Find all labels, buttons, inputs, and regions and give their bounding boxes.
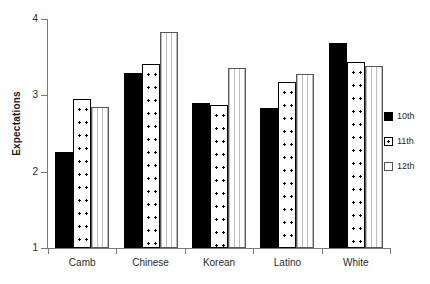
x-tick xyxy=(390,248,391,254)
legend-swatch-icon xyxy=(384,162,393,171)
y-tick-label: 3 xyxy=(24,90,38,100)
legend-label: 11th xyxy=(397,137,414,146)
bar-camb-11th xyxy=(73,99,91,248)
bar-chinese-11th xyxy=(142,64,160,248)
legend-item-10th[interactable]: 10th xyxy=(384,108,430,124)
y-tick-label: 1 xyxy=(24,243,38,253)
y-tick-label: 4 xyxy=(24,14,38,24)
y-tick xyxy=(41,95,47,96)
x-tick xyxy=(253,248,254,254)
x-group-label: White xyxy=(316,257,396,268)
bar-white-12th xyxy=(365,66,383,248)
legend-label: 10th xyxy=(397,112,415,121)
x-tick xyxy=(322,248,323,254)
legend-item-12th[interactable]: 12th xyxy=(384,158,430,174)
legend-swatch-icon xyxy=(384,112,393,121)
x-tick xyxy=(48,248,49,254)
legend-item-11th[interactable]: 11th xyxy=(384,133,430,149)
bar-latino-10th xyxy=(260,108,278,248)
y-tick xyxy=(41,172,47,173)
bar-camb-12th xyxy=(91,107,109,248)
bar-camb-10th xyxy=(55,152,73,248)
y-axis-line xyxy=(47,19,48,249)
legend-label: 12th xyxy=(397,162,415,171)
y-tick xyxy=(41,19,47,20)
y-axis-title: Expectations xyxy=(11,74,22,174)
y-tick xyxy=(41,248,47,249)
legend-swatch-icon xyxy=(384,137,393,146)
bar-korean-11th xyxy=(210,105,228,248)
x-axis-line xyxy=(47,248,390,249)
legend: 10th11th12th xyxy=(384,108,430,183)
bar-korean-10th xyxy=(192,103,210,248)
bar-chinese-10th xyxy=(124,73,142,248)
bar-chart: Expectations 1234 CambChineseKoreanLatin… xyxy=(0,0,430,284)
bar-white-11th xyxy=(347,62,365,248)
y-tick-label: 2 xyxy=(24,167,38,177)
x-tick xyxy=(185,248,186,254)
bar-white-10th xyxy=(329,43,347,248)
bar-korean-12th xyxy=(228,68,246,248)
bar-latino-12th xyxy=(296,74,314,248)
bar-chinese-12th xyxy=(160,32,178,248)
x-tick xyxy=(116,248,117,254)
bar-latino-11th xyxy=(278,82,296,248)
